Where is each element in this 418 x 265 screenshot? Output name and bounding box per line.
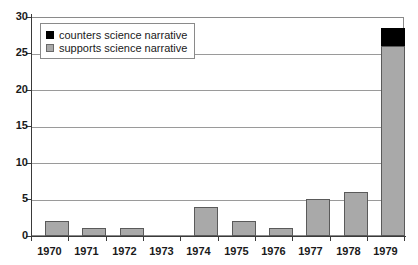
y-tick-label-15: 15 xyxy=(0,120,28,131)
y-tick-label-10: 10 xyxy=(0,157,28,168)
black-square-icon xyxy=(46,31,54,39)
x-tick-mark-0 xyxy=(31,237,32,241)
bar-1976-supports xyxy=(269,228,293,236)
bar-1971-supports xyxy=(82,228,106,236)
x-tick-label-1972: 1972 xyxy=(106,245,143,257)
legend-item-counters: counters science narrative xyxy=(46,28,187,41)
gray-square-icon xyxy=(46,44,54,52)
x-tick-mark-2 xyxy=(106,237,107,241)
y-tick-label-25: 25 xyxy=(0,47,28,58)
bar-1974-supports xyxy=(194,207,218,236)
bar-1979-counters xyxy=(381,28,405,46)
x-tick-mark-4 xyxy=(180,237,181,241)
y-tick-label-0: 0 xyxy=(0,230,28,241)
bar-1974 xyxy=(194,207,218,236)
x-tick-mark-1 xyxy=(68,237,69,241)
bar-1977 xyxy=(306,199,330,236)
bar-1972 xyxy=(120,228,144,236)
x-tick-mark-8 xyxy=(330,237,331,241)
bar-1977-supports xyxy=(306,199,330,236)
x-tick-label-1970: 1970 xyxy=(31,245,68,257)
x-tick-label-1973: 1973 xyxy=(143,245,180,257)
x-tick-mark-6 xyxy=(255,237,256,241)
bar-1970-supports xyxy=(45,221,69,236)
bar-1975-supports xyxy=(232,221,256,236)
x-tick-label-1978: 1978 xyxy=(330,245,367,257)
y-tick-label-30: 30 xyxy=(0,11,28,22)
gridline-20 xyxy=(32,90,403,91)
x-tick-mark-5 xyxy=(218,237,219,241)
bar-1976 xyxy=(269,228,293,236)
x-tick-label-1975: 1975 xyxy=(218,245,255,257)
bar-1979 xyxy=(381,28,405,236)
y-tick-label-5: 5 xyxy=(0,193,28,204)
bar-1978 xyxy=(344,192,368,236)
bar-1978-supports xyxy=(344,192,368,236)
bar-1972-supports xyxy=(120,228,144,236)
legend: counters science narrative supports scie… xyxy=(40,23,195,59)
x-tick-label-1971: 1971 xyxy=(68,245,105,257)
x-tick-mark-10 xyxy=(404,237,405,241)
x-tick-label-1974: 1974 xyxy=(180,245,217,257)
x-tick-mark-3 xyxy=(143,237,144,241)
bar-1975 xyxy=(232,221,256,236)
bar-chart: 30 25 20 15 10 5 0 1970 1971 xyxy=(0,0,418,265)
legend-label-counters: counters science narrative xyxy=(59,29,187,41)
x-tick-label-1976: 1976 xyxy=(255,245,292,257)
gridline-10 xyxy=(32,163,403,164)
bar-1970 xyxy=(45,221,69,236)
gridline-15 xyxy=(32,127,403,128)
x-tick-mark-9 xyxy=(367,237,368,241)
x-axis xyxy=(28,236,406,237)
x-tick-mark-7 xyxy=(292,237,293,241)
legend-label-supports: supports science narrative xyxy=(59,42,187,54)
y-axis xyxy=(31,14,32,239)
x-tick-label-1979: 1979 xyxy=(367,245,404,257)
x-tick-label-1977: 1977 xyxy=(292,245,329,257)
bar-1979-supports xyxy=(381,46,405,236)
bar-1971 xyxy=(82,228,106,236)
legend-item-supports: supports science narrative xyxy=(46,41,187,54)
y-tick-label-20: 20 xyxy=(0,84,28,95)
